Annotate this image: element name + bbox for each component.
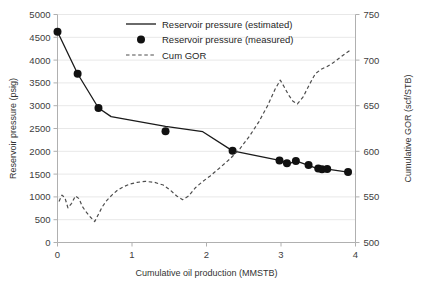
x-axis-tick-label: 1 [129,249,134,260]
y-axis-left-title: Reservoir pressure (psig) [8,78,18,179]
y-axis-right-tick-label: 550 [364,191,380,202]
y-axis-left-tick-label: 2000 [29,146,50,157]
chart-container: 0500100015002000250030003500400045005000… [0,0,427,292]
y-axis-left-tick-label: 3000 [29,100,50,111]
x-axis-tick-label: 3 [278,249,283,260]
series-marker-measured [305,161,313,169]
legend-swatch-dot [137,36,145,44]
y-axis-right-tick-label: 700 [364,55,380,66]
reservoir-pressure-gor-chart: 0500100015002000250030003500400045005000… [0,0,427,292]
y-axis-right-tick-label: 650 [364,100,380,111]
series-marker-measured [74,70,82,78]
y-axis-left-tick-label: 2500 [29,123,50,134]
y-axis-left-tick-label: 4500 [29,32,50,43]
y-axis-left-tick-label: 1000 [29,191,50,202]
y-axis-left-tick-label: 4000 [29,55,50,66]
series-marker-measured [162,127,170,135]
series-marker-measured [283,159,291,167]
y-axis-right-title: Cumulative GOR (scf/STB) [403,74,413,182]
x-axis-tick-label: 4 [353,249,358,260]
y-axis-left-tick-label: 5000 [29,9,50,20]
legend-label: Cum GOR [162,50,206,61]
x-axis-tick-label: 0 [55,249,60,260]
y-axis-right-tick-label: 600 [364,146,380,157]
x-axis-tick-label: 2 [204,249,209,260]
legend-label: Reservoir pressure (measured) [162,34,293,45]
y-axis-right-tick-label: 500 [364,237,380,248]
series-marker-measured [323,165,331,173]
series-marker-measured [276,156,284,164]
series-marker-measured [54,28,62,36]
y-axis-left-tick-label: 1500 [29,169,50,180]
y-axis-left-tick-label: 3500 [29,77,50,88]
y-axis-right-tick-label: 750 [364,9,380,20]
legend-label: Reservoir pressure (estimated) [162,19,292,30]
series-marker-measured [94,104,102,112]
series-marker-measured [229,147,237,155]
x-axis-title: Cumulative oil production (MMSTB) [135,268,277,278]
y-axis-left-tick-label: 0 [45,237,50,248]
series-marker-measured [292,157,300,165]
y-axis-left-tick-label: 500 [35,214,51,225]
series-marker-measured [344,168,352,176]
